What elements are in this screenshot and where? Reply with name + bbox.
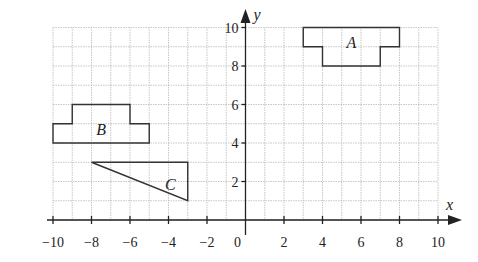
y-tick-label: 8: [232, 59, 239, 74]
x-tick-label: 4: [319, 235, 326, 250]
x-tick-label: 10: [431, 235, 445, 250]
coordinate-grid-diagram: xy −10−8−6−4−20246810246810 ABC: [0, 0, 478, 262]
shape-label-b: B: [96, 121, 106, 138]
x-tick-label: 6: [358, 235, 365, 250]
shape-label-c: C: [165, 176, 176, 193]
x-tick-label: −10: [42, 235, 64, 250]
x-tick-label: 8: [396, 235, 403, 250]
x-tick-label: −2: [200, 235, 215, 250]
y-tick-label: 6: [232, 98, 239, 113]
x-axis-arrow-icon: [448, 215, 462, 225]
y-tick-label: 2: [232, 175, 239, 190]
x-tick-label: −6: [123, 235, 138, 250]
x-tick-label: 0: [234, 235, 241, 250]
y-tick-label: 10: [225, 21, 239, 36]
x-tick-label: −8: [84, 235, 99, 250]
x-tick-label: −4: [161, 235, 176, 250]
y-axis-arrow-icon: [241, 9, 251, 23]
x-tick-label: 2: [281, 235, 288, 250]
shape-label-a: A: [345, 34, 356, 51]
y-tick-label: 4: [232, 136, 239, 151]
y-axis-label: y: [252, 6, 262, 24]
x-axis-label: x: [445, 196, 453, 213]
